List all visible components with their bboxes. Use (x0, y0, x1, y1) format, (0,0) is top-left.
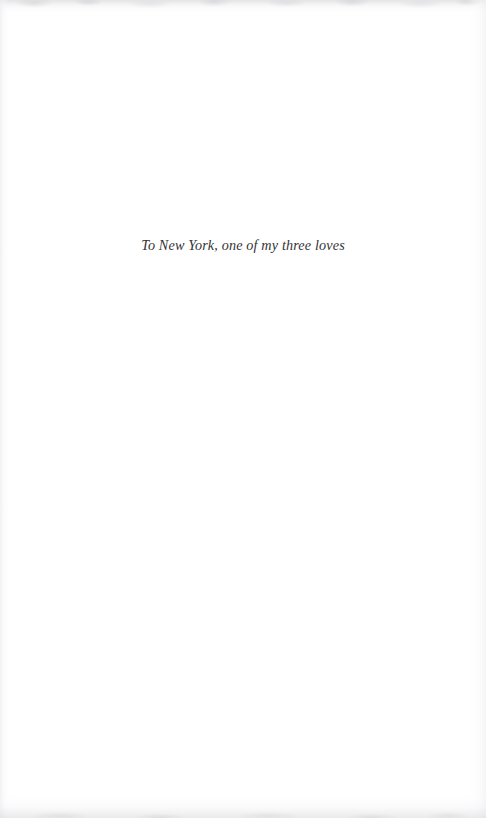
scan-tint-left-icon (0, 0, 9, 818)
scan-texture-top-icon (0, 0, 486, 11)
scan-texture-bottom-icon (0, 800, 486, 818)
dedication-text: To New York, one of my three loves (0, 236, 486, 254)
dedication-page: To New York, one of my three loves (0, 0, 486, 818)
scan-shadow-top-icon (0, 0, 486, 14)
scan-shadow-bottom-icon (0, 792, 486, 818)
scan-tint-right-icon (464, 0, 486, 818)
